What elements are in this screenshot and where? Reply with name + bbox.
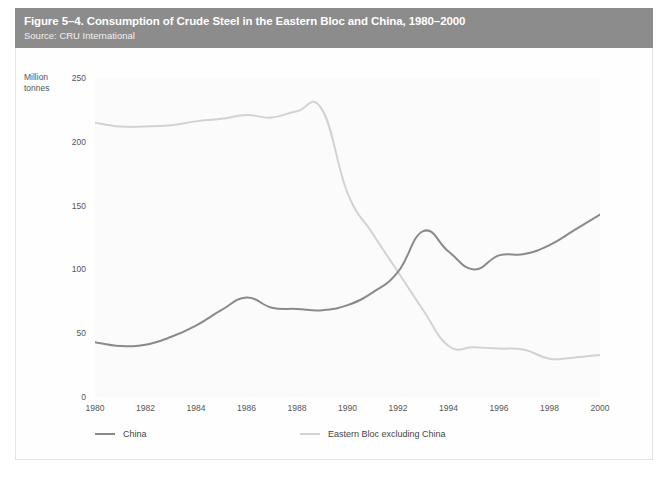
y-tick-label: 250 xyxy=(56,73,86,83)
legend-label: Eastern Bloc excluding China xyxy=(328,429,446,439)
line-chart-svg xyxy=(95,78,600,397)
figure-source: Source: CRU International xyxy=(24,29,653,42)
x-tick-label: 1982 xyxy=(126,403,166,413)
y-tick-label: 150 xyxy=(56,201,86,211)
x-tick-label: 1994 xyxy=(429,403,469,413)
figure-title: Figure 5–4. Consumption of Crude Steel i… xyxy=(24,14,653,28)
legend-label: China xyxy=(123,429,147,439)
x-tick-label: 1984 xyxy=(176,403,216,413)
figure-container: Figure 5–4. Consumption of Crude Steel i… xyxy=(0,0,670,477)
y-tick-label: 0 xyxy=(56,392,86,402)
legend-item[interactable]: Eastern Bloc excluding China xyxy=(300,429,446,439)
x-tick-label: 2000 xyxy=(580,403,620,413)
series-line xyxy=(95,215,600,347)
x-tick-label: 1986 xyxy=(227,403,267,413)
x-tick-label: 1990 xyxy=(328,403,368,413)
plot-area xyxy=(95,78,600,397)
legend-swatch-icon xyxy=(95,433,115,435)
y-tick-label: 50 xyxy=(56,328,86,338)
x-tick-label: 1992 xyxy=(378,403,418,413)
legend-swatch-icon xyxy=(300,433,320,435)
x-tick-label: 1988 xyxy=(277,403,317,413)
x-tick-label: 1998 xyxy=(530,403,570,413)
y-axis-title-line2: tonnes xyxy=(24,83,74,94)
legend-item[interactable]: China xyxy=(95,429,147,439)
y-tick-label: 100 xyxy=(56,264,86,274)
y-tick-label: 200 xyxy=(56,137,86,147)
series-line xyxy=(95,102,600,359)
figure-title-band: Figure 5–4. Consumption of Crude Steel i… xyxy=(15,8,653,48)
x-tick-label: 1980 xyxy=(75,403,115,413)
x-tick-label: 1996 xyxy=(479,403,519,413)
